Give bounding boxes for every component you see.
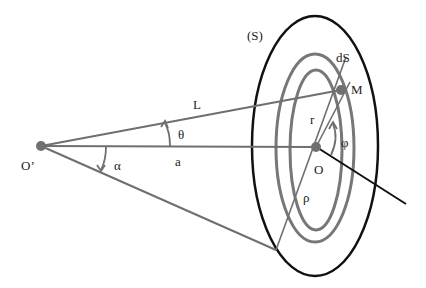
label-rho: ρ: [303, 190, 310, 205]
label-alpha: α: [114, 158, 121, 173]
line-lower: [41, 146, 276, 250]
label-O: O: [314, 162, 323, 177]
label-O-prime: O’: [21, 158, 35, 173]
label-L: L: [193, 97, 201, 112]
line-a: [41, 146, 316, 147]
geometry-diagram: (S) dS M r φ O ρ L θ a α O’: [0, 0, 426, 288]
label-surface: (S): [247, 28, 263, 43]
label-r: r: [310, 112, 315, 127]
label-M: M: [351, 82, 363, 97]
line-L: [41, 90, 341, 146]
axis-line: [318, 148, 406, 204]
label-phi: φ: [341, 135, 349, 150]
diagram-stage: (S) dS M r φ O ρ L θ a α O’: [0, 0, 426, 288]
point-O: [311, 142, 321, 152]
label-dS: dS: [336, 50, 350, 65]
point-M: [336, 85, 346, 95]
point-O-prime: [36, 141, 46, 151]
label-a: a: [175, 154, 181, 169]
label-theta: θ: [178, 127, 184, 142]
phi-arc: [331, 124, 336, 155]
